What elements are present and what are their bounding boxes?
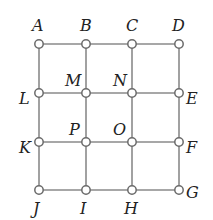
node-label-A: A xyxy=(30,16,44,35)
node-label-L: L xyxy=(18,89,30,108)
node-label-N: N xyxy=(112,71,128,90)
node-label-E: E xyxy=(185,89,198,108)
node-F xyxy=(175,138,183,146)
node-label-K: K xyxy=(18,138,32,157)
node-E xyxy=(175,89,183,97)
node-label-B: B xyxy=(79,16,92,35)
node-H xyxy=(128,186,136,194)
node-C xyxy=(128,40,136,48)
node-I xyxy=(82,186,90,194)
node-label-C: C xyxy=(126,16,138,35)
node-label-J: J xyxy=(30,199,41,218)
node-label-F: F xyxy=(185,138,198,157)
node-label-D: D xyxy=(171,16,185,35)
node-L xyxy=(35,89,43,97)
node-A xyxy=(35,40,43,48)
node-D xyxy=(175,40,183,48)
node-label-G: G xyxy=(186,183,199,202)
node-O xyxy=(128,138,136,146)
node-K xyxy=(35,138,43,146)
node-J xyxy=(35,186,43,194)
node-label-M: M xyxy=(64,71,82,90)
node-N xyxy=(128,89,136,97)
node-label-H: H xyxy=(123,199,139,218)
node-label-O: O xyxy=(113,120,126,139)
edges xyxy=(39,44,179,190)
node-B xyxy=(82,40,90,48)
node-G xyxy=(175,186,183,194)
nodes xyxy=(35,40,183,194)
node-P xyxy=(82,138,90,146)
node-label-I: I xyxy=(79,199,87,218)
grid-graph-diagram: ABCDLMNEKPOFJIHG xyxy=(0,0,213,220)
node-label-P: P xyxy=(68,120,80,139)
node-labels: ABCDLMNEKPOFJIHG xyxy=(18,16,199,218)
node-M xyxy=(82,89,90,97)
